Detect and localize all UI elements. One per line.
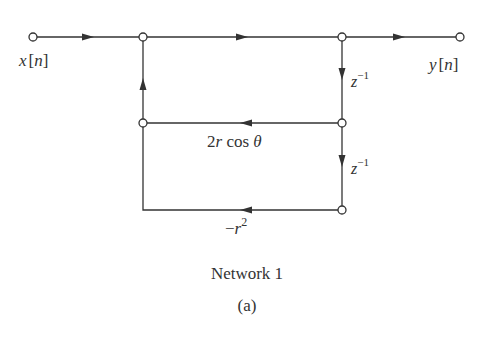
arrow-down-icon [339, 155, 346, 167]
node-w1 [338, 119, 346, 127]
gain-2rcos-label: 2r cos θ [207, 132, 262, 151]
arrow-right-icon [236, 34, 248, 41]
delay-label-2: z−1 [350, 156, 369, 177]
figure-title: Network 1 [211, 264, 283, 283]
branch-output [346, 34, 456, 41]
arrow-right-icon [82, 34, 94, 41]
branch-delay-1 [339, 41, 346, 119]
signal-flow-graph: x[n] y[n] z−1 z−1 2r cos θ −r2 Network 1… [0, 0, 495, 341]
branch-feedback-2rcos [147, 120, 338, 127]
node-w0 [338, 33, 346, 41]
arrow-left-icon [240, 207, 252, 214]
branch-delay-2 [339, 127, 346, 206]
delay-label-1: z−1 [350, 69, 369, 90]
arrow-left-icon [240, 120, 252, 127]
node-input [29, 33, 37, 41]
arrow-up-icon [140, 78, 147, 90]
gain-r2-label: −r2 [225, 215, 247, 238]
node-output [456, 33, 464, 41]
node-left-mid [139, 119, 147, 127]
node-sum [139, 33, 147, 41]
node-w2 [338, 206, 346, 214]
input-label: x[n] [18, 51, 48, 70]
subfigure-label: (a) [238, 296, 257, 315]
branch-input [37, 34, 139, 41]
branch-top-forward [147, 34, 338, 41]
branch-left-up [140, 41, 147, 119]
arrow-down-icon [339, 68, 346, 80]
output-label: y[n] [427, 55, 458, 74]
arrow-right-icon [393, 34, 405, 41]
